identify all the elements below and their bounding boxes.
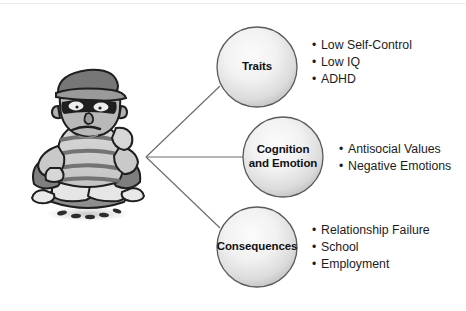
bullet-label: Relationship Failure <box>321 222 430 239</box>
list-item: • Negative Emotions <box>339 158 451 175</box>
bullet-label: School <box>321 239 359 256</box>
list-item: • Low Self-Control <box>312 37 412 54</box>
bullet-list-traits: • Low Self-Control • Low IQ • ADHD <box>312 37 412 88</box>
bullet-label: Negative Emotions <box>348 158 451 175</box>
cartoon-burglar-character <box>32 70 144 221</box>
bullet-icon: • <box>312 222 321 239</box>
node-circle-traits[interactable] <box>217 27 297 107</box>
bullet-label: Antisocial Values <box>348 141 441 158</box>
bullet-icon: • <box>312 71 321 88</box>
bullet-label: Employment <box>321 256 389 273</box>
diagram-canvas: Traits Cognition and Emotion Consequence… <box>0 0 466 311</box>
bullet-icon: • <box>312 37 321 54</box>
node-circle-cognition-and-emotion[interactable] <box>243 117 323 197</box>
bullet-list-consequences: • Relationship Failure • School • Employ… <box>312 222 430 273</box>
connector-lines <box>146 86 244 228</box>
bullet-icon: • <box>312 239 321 256</box>
bullet-icon: • <box>312 54 321 71</box>
bullet-label: Low Self-Control <box>321 37 412 54</box>
bullet-icon: • <box>339 141 348 158</box>
list-item: • Antisocial Values <box>339 141 451 158</box>
bullet-label: Low IQ <box>321 54 360 71</box>
list-item: • ADHD <box>312 71 412 88</box>
node-circle-consequences[interactable] <box>217 207 297 287</box>
list-item: • Employment <box>312 256 430 273</box>
list-item: • Relationship Failure <box>312 222 430 239</box>
bullet-icon: • <box>339 158 348 175</box>
list-item: • Low IQ <box>312 54 412 71</box>
bullet-label: ADHD <box>321 71 356 88</box>
bullet-icon: • <box>312 256 321 273</box>
list-item: • School <box>312 239 430 256</box>
bullet-list-cognition-and-emotion: • Antisocial Values • Negative Emotions <box>339 141 451 175</box>
